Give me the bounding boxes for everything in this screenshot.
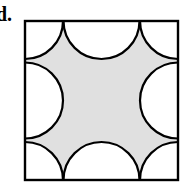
figure-container: d. <box>0 0 189 194</box>
shaded-region <box>25 21 178 180</box>
shaded-region-diagram <box>0 0 189 194</box>
